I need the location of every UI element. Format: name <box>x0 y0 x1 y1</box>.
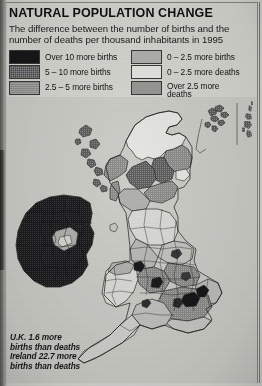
caption-line-4: births than deaths <box>10 362 122 372</box>
legend-swatch-0-2.5-more-deaths <box>131 65 162 79</box>
legend-label: Over 2.5 more deaths <box>167 81 219 99</box>
legend-swatch-over-2.5-more-deaths <box>131 81 162 95</box>
legend-swatch-5-10-more-births <box>9 65 40 79</box>
legend-swatch-0-2.5-more-births <box>131 50 162 64</box>
legend-label: 0 – 2.5 more births <box>167 50 235 62</box>
region-north-wales <box>108 261 134 275</box>
legend-item: 5 – 10 more births <box>9 65 131 80</box>
legend-column-right: 0 – 2.5 more births 0 – 2.5 more deaths … <box>131 50 255 96</box>
subtitle-line-1: The difference between the number of bir… <box>9 23 229 34</box>
legend-item: Over 10 more births <box>9 50 131 65</box>
map-legend: Over 10 more births 5 – 10 more births 2… <box>9 50 255 96</box>
page-subtitle: The difference between the number of bir… <box>9 23 255 45</box>
legend-column-left: Over 10 more births 5 – 10 more births 2… <box>9 50 131 96</box>
page-title: NATURAL POPULATION CHANGE <box>9 6 255 20</box>
header: NATURAL POPULATION CHANGE The difference… <box>9 6 255 45</box>
legend-swatch-over-10-more-births <box>9 50 40 64</box>
map-caption: U.K. 1.6 more births than deaths Ireland… <box>10 333 122 371</box>
legend-label: 2.5 – 5 more births <box>45 81 113 93</box>
legend-item: 0 – 2.5 more births <box>131 50 255 65</box>
page-edge-shadow-dark <box>0 150 5 270</box>
subtitle-line-2: number of deaths per thousand inhabitant… <box>9 34 223 45</box>
page-border-right <box>259 2 260 383</box>
legend-item: 0 – 2.5 more deaths <box>131 65 255 80</box>
legend-swatch-2.5-5-more-births <box>9 81 40 95</box>
legend-item: 2.5 – 5 more births <box>9 81 131 96</box>
legend-label: Over 10 more births <box>45 50 117 62</box>
atlas-map-page: NATURAL POPULATION CHANGE The difference… <box>0 0 262 386</box>
legend-label: 0 – 2.5 more deaths <box>167 65 240 77</box>
legend-item: Over 2.5 more deaths <box>131 81 255 96</box>
legend-label: 5 – 10 more births <box>45 65 111 77</box>
